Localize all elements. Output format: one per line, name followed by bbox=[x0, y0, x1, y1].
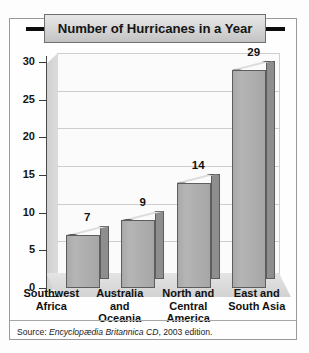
source-suffix: , 2003 edition. bbox=[158, 327, 212, 337]
bar-value-label: 7 bbox=[67, 211, 107, 223]
category-label-line: Africa bbox=[17, 300, 86, 313]
bar-side-face bbox=[266, 61, 275, 279]
plot-area: 051015202530 791429 bbox=[17, 45, 287, 297]
x-axis-category-label: East andSouth Asia bbox=[223, 287, 292, 329]
source-divider bbox=[10, 320, 296, 321]
y-axis-tick-label: 15 bbox=[13, 168, 35, 180]
category-label-line: Southwest bbox=[17, 287, 86, 300]
y-axis-tick-label: 25 bbox=[13, 93, 35, 105]
y-axis-tick-label: 5 bbox=[13, 243, 35, 255]
source-note: Source: Encyclopædia Britannica CD, 2003… bbox=[17, 327, 212, 337]
bar bbox=[232, 45, 266, 288]
y-axis-tick bbox=[39, 175, 47, 176]
y-axis-tick bbox=[39, 100, 47, 101]
y-axis-tick bbox=[39, 213, 47, 214]
category-label-line: America bbox=[154, 312, 223, 325]
y-axis-tick-label: 20 bbox=[13, 130, 35, 142]
bar-front-face bbox=[232, 70, 266, 288]
category-label-line: East and bbox=[223, 287, 292, 300]
y-axis-tick bbox=[39, 137, 47, 138]
x-axis-category-label: AustraliaandOceania bbox=[86, 287, 155, 329]
y-axis-line bbox=[46, 56, 47, 297]
chart-title: Number of Hurricanes in a Year bbox=[58, 21, 253, 36]
source-publication: Encyclopædia Britannica CD bbox=[49, 327, 158, 337]
category-label-line: and bbox=[86, 300, 155, 313]
category-label-line: South Asia bbox=[223, 300, 292, 313]
category-label-line: Central bbox=[154, 300, 223, 313]
category-label-line: Oceania bbox=[86, 312, 155, 325]
category-label-line: Australia bbox=[86, 287, 155, 300]
bar-side-face bbox=[100, 226, 109, 279]
x-axis-category-labels: SouthwestAfricaAustraliaandOceaniaNorth … bbox=[17, 287, 291, 329]
bar bbox=[121, 45, 155, 288]
bar-value-label: 9 bbox=[123, 196, 163, 208]
plot-side-wall bbox=[46, 53, 58, 297]
bar-side-face bbox=[155, 211, 164, 279]
category-label-line: North and bbox=[154, 287, 223, 300]
hurricanes-bar-chart-figure: Number of Hurricanes in a Year 051015202… bbox=[0, 0, 309, 353]
bar-front-face bbox=[177, 183, 211, 288]
bar-side-face bbox=[211, 174, 220, 279]
y-axis-tick bbox=[39, 250, 47, 251]
bar-value-label: 14 bbox=[178, 159, 218, 171]
x-axis-category-label: North andCentralAmerica bbox=[154, 287, 223, 329]
source-prefix: Source: bbox=[17, 327, 49, 337]
chart-title-banner: Number of Hurricanes in a Year bbox=[44, 14, 266, 43]
y-axis-tick bbox=[39, 62, 47, 63]
bar bbox=[66, 45, 100, 288]
bar-front-face bbox=[66, 235, 100, 288]
bar-front-face bbox=[121, 220, 155, 288]
x-axis-category-label: SouthwestAfrica bbox=[17, 287, 86, 329]
y-axis-tick-label: 10 bbox=[13, 206, 35, 218]
bar-value-label: 29 bbox=[234, 46, 274, 58]
y-axis-tick-label: 30 bbox=[13, 55, 35, 67]
